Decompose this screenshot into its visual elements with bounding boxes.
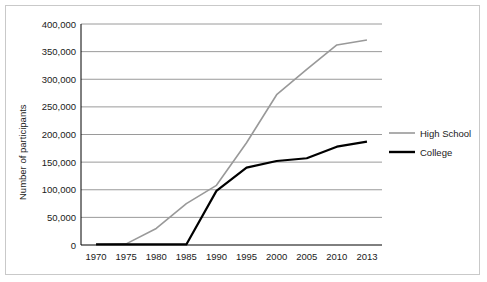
y-tick-label: 0 — [71, 240, 76, 251]
y-tick-label: 400,000 — [42, 19, 76, 30]
y-axis-tick-labels: 050,000100,000150,000200,000250,000300,0… — [42, 19, 76, 251]
line-chart: 050,000100,000150,000200,000250,000300,0… — [0, 0, 487, 282]
y-tick-label: 150,000 — [42, 157, 76, 168]
chart-legend: High SchoolCollege — [389, 128, 471, 158]
y-tick-label: 250,000 — [42, 101, 76, 112]
series-line-high-school — [96, 40, 367, 244]
y-tick-label: 50,000 — [47, 212, 76, 223]
x-tick-label: 1995 — [236, 251, 257, 262]
x-tick-label: 2010 — [326, 251, 347, 262]
y-tick-label: 350,000 — [42, 46, 76, 57]
data-series — [96, 40, 367, 244]
x-tick-label: 1975 — [116, 251, 137, 262]
x-tick-label: 2005 — [296, 251, 317, 262]
legend-label-high-school: High School — [420, 128, 471, 139]
y-tick-label: 300,000 — [42, 74, 76, 85]
x-tick-label: 1985 — [176, 251, 197, 262]
x-tick-label: 2000 — [266, 251, 287, 262]
x-tick-label: 1970 — [85, 251, 106, 262]
legend-label-college: College — [420, 147, 452, 158]
x-axis-tick-labels: 1970197519801985199019952000200520102013 — [85, 251, 377, 262]
series-line-college — [96, 142, 367, 245]
gridlines — [81, 24, 382, 245]
y-tick-label: 100,000 — [42, 184, 76, 195]
y-tick-label: 200,000 — [42, 129, 76, 140]
chart-svg: 050,000100,000150,000200,000250,000300,0… — [0, 0, 487, 282]
y-axis-title: Number of participants — [17, 104, 28, 200]
x-tick-label: 1990 — [206, 251, 227, 262]
x-tick-label: 2013 — [356, 251, 377, 262]
x-tick-label: 1980 — [146, 251, 167, 262]
